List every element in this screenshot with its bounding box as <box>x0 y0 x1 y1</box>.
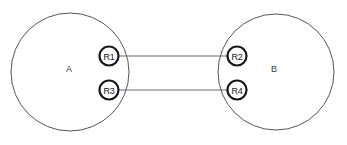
router-label-r3: R3 <box>103 86 114 96</box>
router-label-r2: R2 <box>231 52 242 62</box>
router-label-r1: R1 <box>103 52 114 62</box>
domain-label-a: A <box>66 64 72 74</box>
diagram-canvas: R1 R3 R2 R4 A B <box>0 0 347 145</box>
network-diagram: R1 R3 R2 R4 A B <box>0 0 347 145</box>
router-label-r4: R4 <box>231 86 242 96</box>
domain-label-b: B <box>271 64 277 74</box>
